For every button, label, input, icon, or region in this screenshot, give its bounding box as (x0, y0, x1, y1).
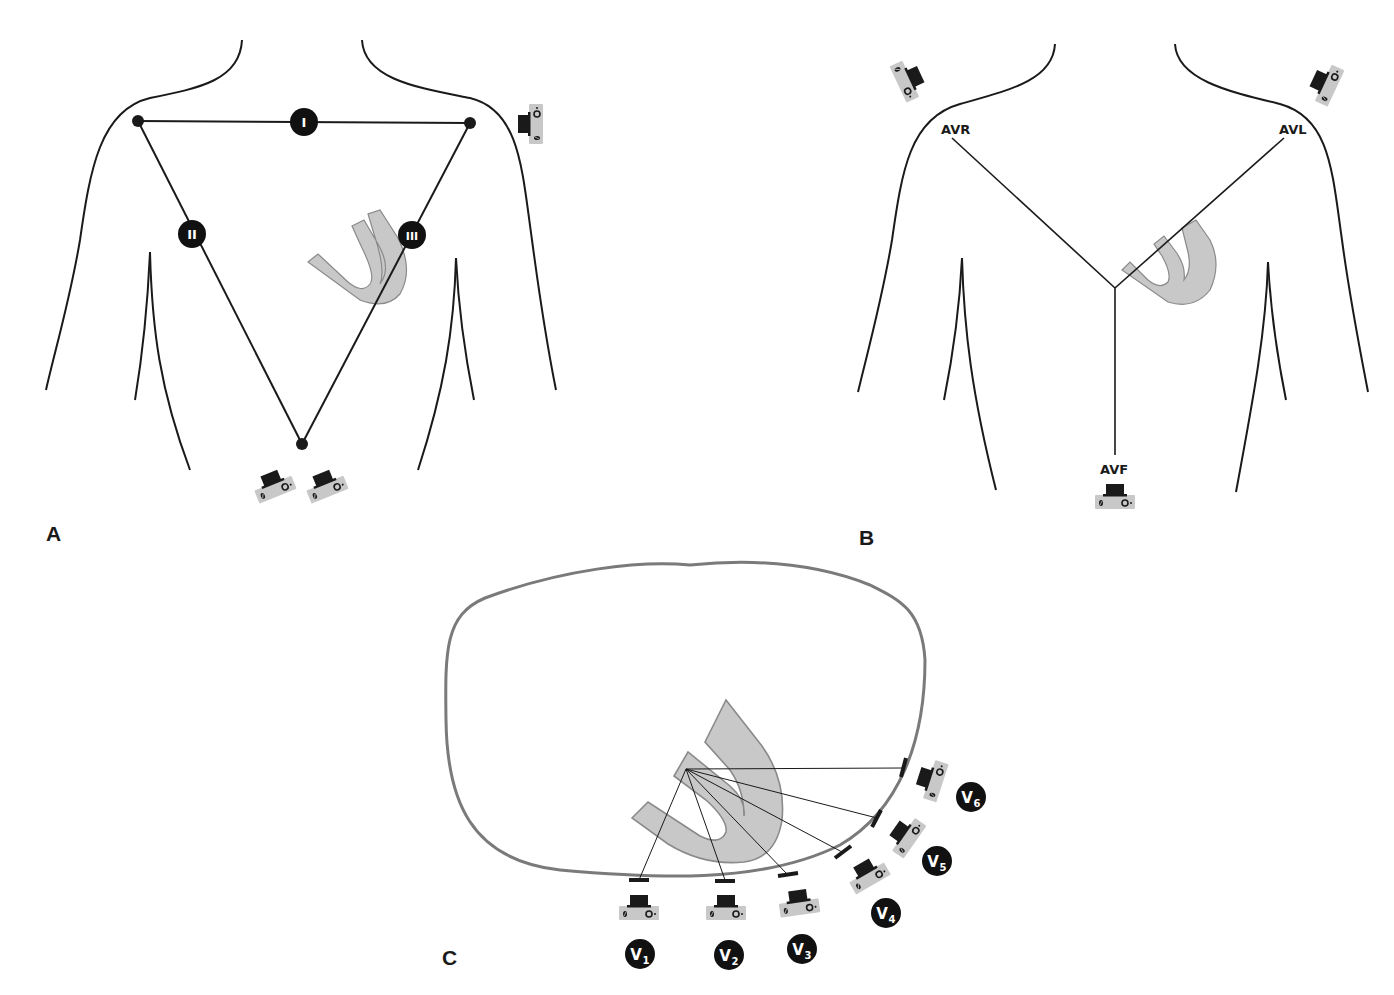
lead-badge-III: III (398, 221, 426, 249)
torso-outline-b (858, 44, 1368, 492)
camera-icon-b-left-arm (1305, 60, 1345, 107)
camera-icon-v2 (706, 895, 746, 920)
camera-icon-a-leg-2 (302, 466, 348, 504)
heart-a (308, 210, 407, 304)
lead-badge-II: II (178, 220, 206, 248)
ecg-lead-diagram: I II III AVR (0, 0, 1394, 995)
lead-label-avf: AVF (1100, 462, 1128, 477)
augmented-lead-lines (952, 138, 1284, 455)
svg-text:V: V (630, 946, 642, 964)
svg-text:V: V (792, 941, 804, 959)
lead-badge-v3: V 3 (787, 934, 817, 964)
lead-label-avr: AVR (941, 122, 970, 137)
lead-badge-v2: V 2 (714, 940, 744, 970)
camera-icon-v5 (883, 812, 926, 859)
camera-icon-b-leg (1095, 484, 1135, 509)
lead-badge-v5: V 5 (922, 846, 952, 876)
svg-text:4: 4 (889, 914, 896, 925)
lead-label-avl: AVL (1279, 122, 1307, 137)
panel-label-b: B (859, 526, 874, 550)
svg-text:V: V (927, 853, 939, 871)
electrode-left-leg (296, 438, 308, 450)
svg-text:V: V (719, 947, 731, 965)
svg-text:1: 1 (643, 955, 650, 966)
camera-icon-b-right-arm (890, 56, 930, 103)
svg-text:5: 5 (940, 862, 947, 873)
panel-label-c: C (442, 946, 457, 970)
lead-badge-v6: V 6 (956, 782, 986, 812)
lead-badge-I: I (290, 108, 318, 136)
svg-text:II: II (187, 227, 197, 242)
camera-icon-a-leg-1 (250, 466, 296, 504)
svg-text:2: 2 (732, 956, 739, 967)
svg-text:3: 3 (805, 950, 812, 961)
camera-icon-v4 (844, 853, 891, 895)
camera-icon-a-left-arm (518, 104, 543, 144)
camera-icon-v1 (619, 895, 659, 920)
svg-text:V: V (961, 789, 973, 807)
lead-badge-v1: V 1 (625, 939, 655, 969)
panel-b: AVR AVL AVF (858, 44, 1368, 509)
panel-c: V 1 V 2 V 3 V 4 V 5 V 6 (446, 562, 986, 970)
camera-icon-v6 (913, 757, 949, 803)
panel-a: I II III (46, 40, 556, 504)
electrode-right-arm (132, 115, 144, 127)
heart-b (1122, 220, 1216, 304)
electrode-left-arm (464, 117, 476, 129)
svg-text:6: 6 (974, 798, 981, 809)
lead-badge-v4: V 4 (871, 898, 901, 928)
heart-c (632, 700, 783, 863)
torso-outline-a (46, 40, 556, 470)
einthoven-triangle (138, 121, 470, 444)
panel-label-a: A (46, 522, 61, 546)
svg-text:III: III (406, 230, 418, 243)
svg-text:V: V (876, 905, 888, 923)
svg-text:I: I (302, 115, 307, 130)
camera-icon-v3 (777, 887, 820, 917)
